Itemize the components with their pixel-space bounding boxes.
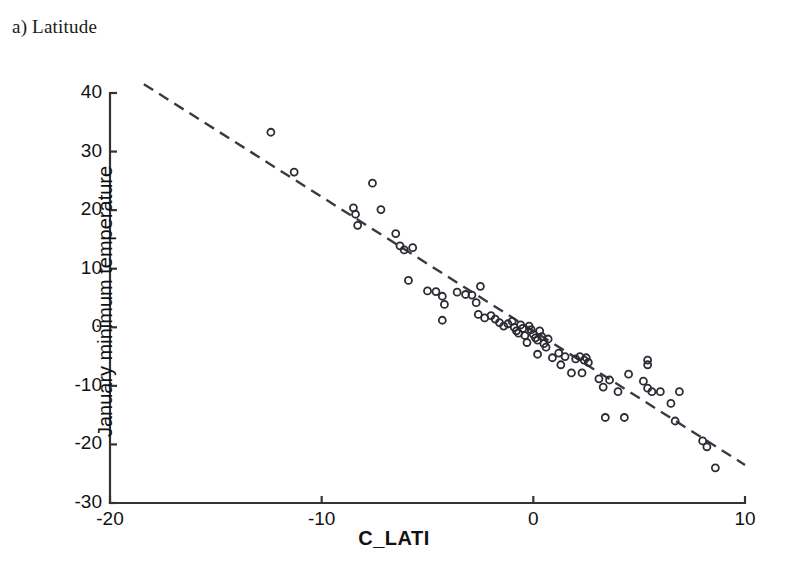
data-point	[562, 353, 569, 360]
data-point	[595, 375, 602, 382]
data-point	[432, 288, 439, 295]
data-point	[606, 377, 613, 384]
data-point	[521, 332, 528, 339]
data-point	[454, 289, 461, 296]
data-point	[352, 211, 359, 218]
data-points-group	[267, 129, 718, 472]
data-point	[615, 388, 622, 395]
y-axis-title: January minimum temperature	[94, 92, 117, 512]
data-point	[667, 400, 674, 407]
axes	[110, 93, 745, 503]
data-point	[703, 443, 710, 450]
trend-line-group	[144, 84, 745, 465]
data-point	[657, 388, 664, 395]
regression-trend-line	[144, 84, 745, 465]
data-point	[424, 287, 431, 294]
data-point	[439, 293, 446, 300]
data-point	[534, 351, 541, 358]
data-point	[600, 384, 607, 391]
data-point	[409, 244, 416, 251]
tick-marks	[110, 93, 745, 503]
data-point	[602, 414, 609, 421]
x-axis-title: C_LATI	[0, 527, 788, 550]
data-point	[621, 414, 628, 421]
data-point	[267, 129, 274, 136]
data-point	[549, 354, 556, 361]
data-point	[568, 369, 575, 376]
data-point	[369, 180, 376, 187]
data-point	[644, 361, 651, 368]
data-point	[557, 361, 564, 368]
scatter-plot-canvas	[0, 0, 788, 567]
data-point	[523, 339, 530, 346]
data-point	[473, 299, 480, 306]
data-point	[640, 378, 647, 385]
data-point	[392, 230, 399, 237]
data-point	[405, 277, 412, 284]
data-point	[377, 206, 384, 213]
data-point	[579, 369, 586, 376]
data-point	[625, 371, 632, 378]
data-point	[354, 222, 361, 229]
data-point	[441, 301, 448, 308]
data-point	[291, 169, 298, 176]
data-point	[676, 388, 683, 395]
figure-panel: a) Latitude 403020100-10-20-30 -20-10010…	[0, 0, 788, 567]
data-point	[712, 464, 719, 471]
data-point	[396, 242, 403, 249]
data-point	[439, 317, 446, 324]
data-point	[477, 283, 484, 290]
